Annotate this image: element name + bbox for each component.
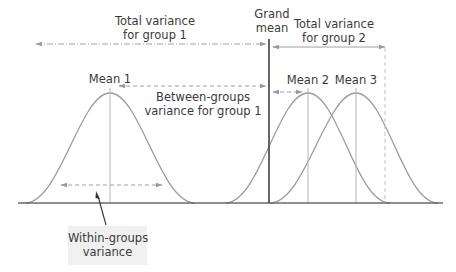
mean-2-label: Mean 2: [283, 73, 333, 87]
distribution-curve-group-3: [270, 93, 438, 203]
within-groups-pointer-line: [98, 196, 106, 225]
mean-1-label: Mean 1: [85, 72, 135, 86]
within-groups-variance-label: Within-groups variance: [68, 231, 147, 259]
grand-mean-label: Grand mean: [249, 7, 295, 35]
total-variance-group-2-label: Total variance for group 2: [290, 17, 378, 45]
total-variance-group-1-label: Total variance for group 1: [95, 14, 215, 42]
mean-3-label: Mean 3: [331, 73, 381, 87]
between-groups-variance-label: Between-groups variance for group 1: [138, 90, 268, 118]
within-groups-pointer-arrowhead: [96, 191, 101, 199]
